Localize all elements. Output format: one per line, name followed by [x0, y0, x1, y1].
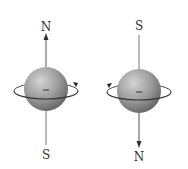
spin-right: S N — [107, 19, 171, 164]
label-top: N — [41, 20, 52, 34]
rotation-arrow-icon — [73, 82, 78, 87]
spin-diagram: N S S N — [0, 0, 188, 169]
sphere — [117, 69, 161, 113]
label-bottom: N — [134, 150, 145, 164]
label-top: S — [135, 19, 143, 33]
sphere — [24, 67, 68, 111]
rotation-arrow-icon — [107, 83, 112, 88]
arrow-up-icon — [44, 33, 49, 40]
arrow-down-icon — [137, 141, 142, 148]
spin-left: N S — [14, 20, 78, 162]
label-bottom: S — [42, 148, 50, 162]
